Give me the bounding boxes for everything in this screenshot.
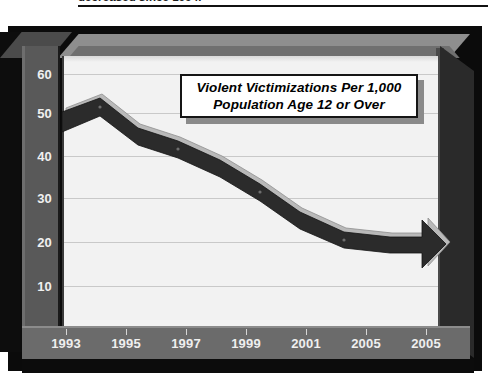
x-tick-mark: [126, 329, 127, 335]
x-tick-label: 2005: [401, 336, 451, 351]
x-tick-mark: [246, 329, 247, 335]
chart-title-line-1: Violent Victimizations Per 1,000: [197, 80, 402, 95]
vertex-marker: [258, 190, 261, 193]
x-tick-label: 2001: [281, 336, 331, 351]
vertex-marker: [342, 238, 345, 241]
x-tick-mark: [186, 329, 187, 335]
chart-title-line-2: Population Age 12 or Over: [213, 97, 385, 112]
y-tick-label: 40: [22, 149, 52, 164]
x-tick-mark: [426, 329, 427, 335]
x-tick-label: 2005: [341, 336, 391, 351]
chart-3d-container: 60 50 40 30 20 10 0: [0, 16, 466, 356]
x-tick-label: 1995: [101, 336, 151, 351]
chart-title-box: Violent Victimizations Per 1,000 Populat…: [180, 74, 418, 118]
y-tick-label: 60: [22, 67, 52, 82]
x-tick-label: 1993: [41, 336, 91, 351]
y-tick-label: 50: [22, 106, 52, 121]
x-tick-mark: [366, 329, 367, 335]
x-tick-mark: [66, 329, 67, 335]
vertex-marker: [98, 105, 101, 108]
caption-divider: [78, 5, 488, 7]
y-tick-label: 30: [22, 191, 52, 206]
y-tick-label: 20: [22, 235, 52, 250]
y-tick-label: 10: [22, 279, 52, 294]
x-axis-shadow: [22, 359, 474, 373]
x-tick-label: 1997: [161, 336, 211, 351]
vertex-marker: [176, 147, 179, 150]
chart-title: Violent Victimizations Per 1,000 Populat…: [197, 79, 402, 113]
chart-right-wall: [440, 46, 474, 358]
x-tick-mark: [306, 329, 307, 335]
chart-screenshot: decreased since 1994. 60 50 40 30 20 10 …: [0, 0, 498, 373]
x-tick-label: 1999: [221, 336, 271, 351]
clipped-caption-text: decreased since 1994.: [78, 0, 488, 4]
y-axis-panel: 60 50 40 30 20 10 0: [22, 46, 60, 352]
